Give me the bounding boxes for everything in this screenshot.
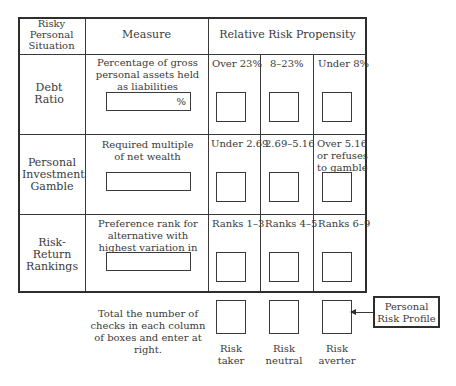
measure-debt-ratio: Percentage of gross personal assets held… — [95, 57, 200, 93]
row-label-debt-ratio: Debt Ratio — [24, 82, 74, 106]
total-box-neutral[interactable] — [269, 300, 299, 334]
range-label: Under 8% — [318, 58, 369, 70]
header-measure: Measure — [85, 29, 208, 41]
percent-suffix: % — [176, 96, 186, 107]
row-divider — [20, 134, 365, 135]
checkbox-gamble-neutral[interactable] — [269, 172, 299, 202]
checkbox-rank-neutral[interactable] — [269, 252, 299, 282]
header-situation: Risky Personal Situation — [20, 18, 83, 51]
personal-risk-profile-box: Personal Risk Profile — [373, 296, 440, 328]
header-propensity: Relative Risk Propensity — [208, 29, 367, 41]
checkbox-rank-taker[interactable] — [216, 252, 246, 282]
debt-ratio-input[interactable]: % — [106, 92, 191, 111]
range-label: Under 2.69 — [211, 138, 268, 150]
label-risk-neutral: Risk neutral — [264, 343, 304, 367]
total-box-averter[interactable] — [322, 300, 352, 334]
checkbox-debt-neutral[interactable] — [269, 92, 299, 122]
total-box-taker[interactable] — [216, 300, 246, 334]
range-label: Ranks 4–5 — [265, 218, 317, 230]
investment-gamble-input[interactable] — [106, 172, 191, 191]
range-label: Over 5.16 or refuses to gamble — [313, 138, 369, 174]
range-label: Over 23% — [212, 58, 262, 70]
range-label: Ranks 1–3 — [212, 218, 264, 230]
label-risk-averter: Risk averter — [317, 343, 357, 367]
row-divider — [20, 54, 365, 55]
row-label-risk-return: Risk-Return Rankings — [24, 237, 80, 273]
row-divider — [20, 214, 365, 215]
arrow-line — [355, 312, 373, 313]
checkbox-gamble-taker[interactable] — [216, 172, 246, 202]
arrow-left-icon — [350, 309, 356, 315]
range-label: Ranks 6–9 — [318, 218, 370, 230]
totals-instruction: Total the number of checks in each colum… — [88, 308, 208, 356]
column-divider — [85, 19, 86, 291]
label-risk-taker: Risk taker — [211, 343, 251, 367]
measure-investment-gamble: Required multiple of net wealth — [100, 139, 195, 163]
column-divider — [260, 54, 261, 291]
checkbox-gamble-averter[interactable] — [322, 172, 352, 202]
row-label-investment-gamble: Personal Investment Gamble — [22, 157, 82, 193]
range-label: 8–23% — [270, 58, 304, 70]
checkbox-rank-averter[interactable] — [322, 252, 352, 282]
risk-return-input[interactable] — [106, 252, 191, 271]
checkbox-debt-taker[interactable] — [216, 92, 246, 122]
range-label: 2.69–5.16 — [265, 138, 315, 150]
column-divider — [208, 19, 209, 291]
checkbox-debt-averter[interactable] — [322, 92, 352, 122]
